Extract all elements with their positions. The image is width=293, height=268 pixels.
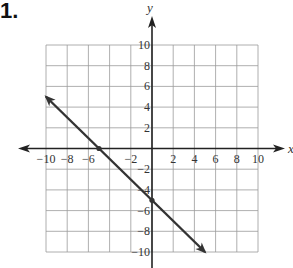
- x-axis-label: x: [287, 141, 293, 156]
- marked-point: [149, 198, 154, 203]
- x-tick-label: 6: [213, 152, 219, 166]
- y-tick-label: 2: [144, 121, 150, 135]
- x-tick-label: −6: [82, 152, 95, 166]
- x-tick-label: 8: [234, 152, 240, 166]
- data-line: [45, 95, 207, 253]
- marked-point: [96, 146, 101, 151]
- y-tick-label: 10: [138, 38, 150, 52]
- coordinate-plane: xy −10−8−6−2246810108642−2−4−6−8−10: [0, 0, 293, 268]
- y-axis-label: y: [145, 0, 153, 15]
- x-tick-label: 2: [170, 152, 176, 166]
- axes: xy: [18, 0, 293, 268]
- x-tick-label: 10: [252, 152, 264, 166]
- y-tick-label: −6: [137, 204, 150, 218]
- y-tick-label: 8: [144, 59, 150, 73]
- x-tick-label: −10: [37, 152, 56, 166]
- plotted-line: [46, 97, 205, 252]
- y-tick-label: 4: [144, 100, 150, 114]
- x-tick-label: −2: [124, 152, 137, 166]
- y-tick-label: 6: [144, 79, 150, 93]
- y-tick-label: −2: [137, 162, 150, 176]
- y-tick-label: −10: [131, 245, 150, 259]
- x-tick-label: −8: [61, 152, 74, 166]
- y-tick-label: −8: [137, 224, 150, 238]
- x-tick-label: 4: [191, 152, 197, 166]
